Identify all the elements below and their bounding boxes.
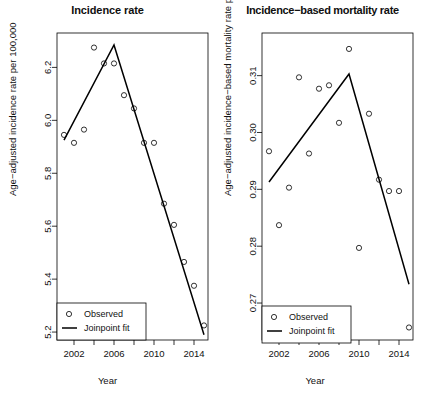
y-tick-label: 6.0 xyxy=(43,114,54,127)
y-tick-label: 5.4 xyxy=(43,273,54,286)
panel-ib-mortality-rate: Incidence−based mortality rate Age−adjus… xyxy=(215,0,430,405)
x-tick-label: 2010 xyxy=(143,348,164,359)
figure-root: Incidence rate Age−adjusted incidence ra… xyxy=(0,0,430,405)
observed-point xyxy=(121,93,126,98)
observed-point xyxy=(346,46,351,51)
observed-point xyxy=(306,151,311,156)
observed-point xyxy=(296,75,301,80)
observed-point xyxy=(266,149,271,154)
observed-point xyxy=(91,45,96,50)
x-tick-label: 2002 xyxy=(63,348,84,359)
observed-point xyxy=(286,185,291,190)
y-tick-label: 5.2 xyxy=(43,325,54,338)
joinpoint-fit-line xyxy=(64,45,204,335)
y-tick-label: 0.31 xyxy=(248,66,259,85)
observed-point xyxy=(71,140,76,145)
y-tick-label: 0.28 xyxy=(248,237,259,256)
observed-point xyxy=(201,323,206,328)
y-tick-label: 0.29 xyxy=(248,180,259,199)
x-tick-label: 2010 xyxy=(348,348,369,359)
observed-point xyxy=(326,83,331,88)
observed-point xyxy=(396,188,401,193)
x-tick-label: 2014 xyxy=(183,348,204,359)
y-tick-label: 0.27 xyxy=(248,294,259,313)
observed-point xyxy=(191,283,196,288)
x-tick-label: 2006 xyxy=(308,348,329,359)
legend-fit-label: Joinpoint fit xyxy=(289,326,335,336)
observed-point xyxy=(366,111,371,116)
plot-area-left: 5.25.45.65.86.06.22002200620102014Observ… xyxy=(0,0,215,405)
plot-box xyxy=(262,33,413,340)
plot-box xyxy=(57,33,208,340)
observed-point xyxy=(61,132,66,137)
y-tick-label: 5.8 xyxy=(43,167,54,180)
observed-point xyxy=(151,140,156,145)
legend-fit-label: Joinpoint fit xyxy=(84,323,130,333)
x-tick-label: 2002 xyxy=(268,348,289,359)
observed-point xyxy=(171,222,176,227)
legend-observed-label: Observed xyxy=(289,312,328,322)
y-tick-label: 6.2 xyxy=(43,61,54,74)
joinpoint-fit-line xyxy=(269,74,409,284)
legend-observed-label: Observed xyxy=(84,309,123,319)
plot-area-right: 0.270.280.290.300.312002200620102014Obse… xyxy=(215,0,430,405)
observed-point xyxy=(406,325,411,330)
observed-point xyxy=(356,245,361,250)
y-tick-label: 5.6 xyxy=(43,220,54,233)
x-tick-label: 2014 xyxy=(388,348,409,359)
y-tick-label: 0.30 xyxy=(248,123,259,142)
x-tick-label: 2006 xyxy=(103,348,124,359)
observed-point xyxy=(336,120,341,125)
observed-point xyxy=(81,127,86,132)
observed-point xyxy=(386,188,391,193)
observed-point xyxy=(316,86,321,91)
observed-point xyxy=(276,223,281,228)
panel-incidence-rate: Incidence rate Age−adjusted incidence ra… xyxy=(0,0,215,405)
observed-point xyxy=(111,61,116,66)
